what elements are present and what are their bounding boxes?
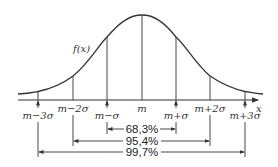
tick-label-m-minus-2sigma: m−2σ [57,103,89,114]
interval-label-68: 68,3% [126,123,159,135]
curve-label: f(x) [72,43,90,54]
tick-label-m-plus-2sigma: m+2σ [194,103,226,114]
tick-label-m-minus-sigma: m−σ [95,110,121,121]
bell-curve [18,15,263,94]
tick-label-m: m [137,103,146,114]
normal-distribution-diagram: x f(x) m−3σ m−2σ m−σ m m+σ m+2σ m+3σ 68,… [0,0,278,167]
tick-label-m-plus-3sigma: m+3σ [229,110,261,121]
interval-label-99: 99,7% [126,146,159,158]
tick-label-m-minus-3sigma: m−3σ [22,110,54,121]
tick-label-m-plus-sigma: m+σ [164,110,190,121]
